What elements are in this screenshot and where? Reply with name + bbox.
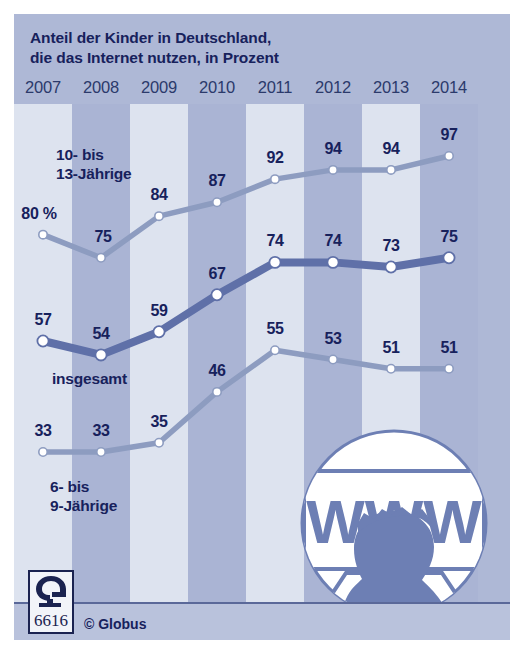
- series-label-bottom-line2: 9-Jährige: [50, 497, 117, 514]
- data-point-top-2014: [445, 152, 453, 160]
- value-label-middle-2011: 74: [266, 232, 283, 250]
- data-point-bottom-2010: [213, 388, 221, 396]
- data-point-bottom-2014: [445, 365, 453, 373]
- value-label-top-2011: 92: [266, 149, 283, 167]
- year-label-2012: 2012: [304, 78, 362, 97]
- data-point-top-2010: [213, 198, 221, 206]
- year-label-2008: 2008: [72, 78, 130, 97]
- value-label-bottom-2011: 55: [266, 320, 283, 338]
- series-label-top: 10- bis 13-Jährige: [56, 146, 132, 184]
- copyright-text: © Globus: [84, 616, 146, 632]
- year-label-2009: 2009: [130, 78, 188, 97]
- chart-plot-area: 80 %758487929494975754596774747375333335…: [14, 104, 510, 609]
- series-label-bottom: 6- bis 9-Jährige: [50, 478, 117, 516]
- data-point-bottom-2011: [271, 346, 279, 354]
- value-label-middle-2008: 54: [92, 325, 109, 343]
- value-label-top-2014: 97: [440, 126, 457, 144]
- value-label-bottom-2007: 33: [34, 422, 51, 440]
- page-title: Anteil der Kinder in Deutschland, die da…: [30, 28, 470, 68]
- value-label-middle-2009: 59: [150, 302, 167, 320]
- title-line-2: die das Internet nutzen, in Prozent: [30, 48, 470, 68]
- series-label-middle: insgesamt: [52, 370, 127, 389]
- series-label-top-line1: 10- bis: [56, 146, 104, 163]
- data-point-top-2007: [39, 230, 47, 238]
- value-label-bottom-2010: 46: [208, 362, 225, 380]
- data-point-middle-2009: [153, 326, 164, 337]
- data-point-middle-2013: [385, 261, 396, 272]
- year-label-2013: 2013: [362, 78, 420, 97]
- value-label-bottom-2013: 51: [382, 339, 399, 357]
- value-label-top-2009: 84: [150, 186, 167, 204]
- www-illustration: WWW: [288, 427, 500, 609]
- data-point-middle-2011: [269, 257, 280, 268]
- series-label-middle-text: insgesamt: [52, 370, 127, 387]
- value-label-middle-2010: 67: [208, 265, 225, 283]
- globus-logo: 6616: [28, 570, 74, 634]
- value-label-middle-2013: 73: [382, 237, 399, 255]
- data-point-top-2013: [387, 166, 395, 174]
- data-point-bottom-2012: [329, 355, 337, 363]
- data-point-top-2012: [329, 166, 337, 174]
- data-point-top-2011: [271, 175, 279, 183]
- data-point-top-2008: [97, 254, 105, 262]
- year-label-2011: 2011: [246, 78, 304, 97]
- value-label-top-2013: 94: [382, 140, 399, 158]
- data-point-top-2009: [155, 212, 163, 220]
- infographic-panel: Anteil der Kinder in Deutschland, die da…: [14, 14, 510, 640]
- year-label-2007: 2007: [14, 78, 72, 97]
- data-point-bottom-2009: [155, 439, 163, 447]
- x-axis-year-labels: 20072008200920102011201220132014: [14, 78, 510, 102]
- data-point-middle-2012: [327, 257, 338, 268]
- value-label-bottom-2009: 35: [150, 413, 167, 431]
- value-label-bottom-2014: 51: [440, 339, 457, 357]
- value-label-top-2010: 87: [208, 172, 225, 190]
- year-label-2010: 2010: [188, 78, 246, 97]
- title-line-1: Anteil der Kinder in Deutschland,: [30, 29, 271, 46]
- value-label-top-2007: 80 %: [21, 205, 56, 223]
- data-point-middle-2008: [95, 349, 106, 360]
- data-point-bottom-2008: [97, 448, 105, 456]
- globus-logo-number: 6616: [30, 611, 72, 631]
- value-label-middle-2012: 74: [324, 232, 341, 250]
- value-label-middle-2014: 75: [440, 228, 457, 246]
- year-label-2014: 2014: [420, 78, 478, 97]
- value-label-middle-2007: 57: [34, 311, 51, 329]
- globus-g-icon: [30, 573, 72, 609]
- data-point-middle-2014: [443, 252, 454, 263]
- data-point-bottom-2013: [387, 365, 395, 373]
- footer-band: © Globus: [14, 602, 510, 640]
- value-label-bottom-2008: 33: [92, 422, 109, 440]
- data-point-middle-2010: [211, 289, 222, 300]
- data-point-bottom-2007: [39, 448, 47, 456]
- data-point-middle-2007: [37, 335, 48, 346]
- series-label-bottom-line1: 6- bis: [50, 478, 89, 495]
- value-label-bottom-2012: 53: [324, 330, 341, 348]
- series-label-top-line2: 13-Jährige: [56, 165, 132, 182]
- value-label-top-2012: 94: [324, 140, 341, 158]
- value-label-top-2008: 75: [94, 228, 111, 246]
